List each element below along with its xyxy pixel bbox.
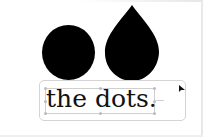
text-box-content[interactable]: the dots. [46,84,157,114]
rotation-handle-line[interactable] [156,100,164,101]
circle-shape[interactable] [42,25,95,80]
window-edge-top [80,0,203,2]
arrow-pointer-icon [179,85,185,93]
window-edge-bottom [0,135,203,137]
window-edge-right [201,0,203,137]
teardrop-shape[interactable] [104,5,160,81]
